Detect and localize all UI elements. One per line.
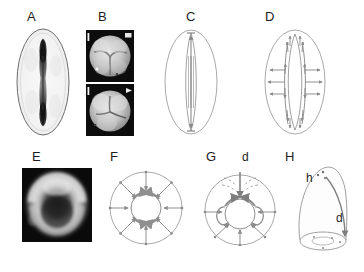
panel-label-a: A xyxy=(27,10,36,23)
panel-e xyxy=(22,168,92,242)
panel-a-graphic xyxy=(14,26,72,138)
scale-bar-bottom xyxy=(88,87,90,95)
panel-label-d: D xyxy=(265,10,275,23)
panel-label-c: C xyxy=(186,10,196,23)
panel-c xyxy=(158,26,224,138)
panel-label-f: F xyxy=(110,150,118,163)
panel-e-graphic xyxy=(22,168,92,242)
panel-d-graphic xyxy=(252,26,338,138)
panel-label-e: E xyxy=(32,150,41,163)
inner-ring xyxy=(225,199,255,229)
left-arrow-chain xyxy=(285,42,288,124)
cleavage-furrow xyxy=(39,38,46,127)
panel-h-annotation-d: d xyxy=(336,212,343,224)
scale-bar-top xyxy=(88,33,90,41)
panel-f-graphic xyxy=(104,166,188,250)
panel-h xyxy=(292,162,360,260)
recycling-loops xyxy=(217,207,264,225)
panel-h-graphic xyxy=(292,162,360,260)
panel-b-micrograph-top xyxy=(86,30,134,82)
panel-d xyxy=(252,26,338,138)
panel-label-b: B xyxy=(98,10,107,23)
panel-h-annotation-h: h xyxy=(306,172,313,184)
panel-g xyxy=(198,166,282,252)
panel-b-micrograph-bottom xyxy=(86,84,134,136)
panel-f xyxy=(104,166,188,250)
polar-arrows xyxy=(290,36,300,128)
dark-center xyxy=(41,196,73,228)
ring-curved-arrows xyxy=(133,193,159,223)
right-arrow-chain xyxy=(302,42,305,124)
figure-container: A B C D E F G H xyxy=(0,0,364,272)
lateral-arrows xyxy=(268,70,322,94)
panel-b xyxy=(86,30,134,136)
panel-label-g: G xyxy=(206,150,216,163)
panel-c-graphic xyxy=(158,26,224,138)
central-lens xyxy=(288,34,302,130)
panel-a xyxy=(14,26,72,138)
panel-g-graphic xyxy=(198,166,282,252)
ring-converging-arrows xyxy=(225,197,255,206)
panel-g-annotation-d: d xyxy=(242,151,249,163)
